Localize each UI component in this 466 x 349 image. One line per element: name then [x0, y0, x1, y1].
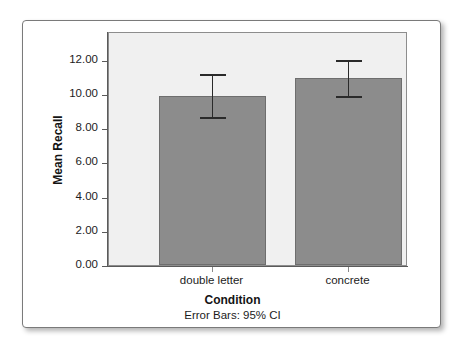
error-bar-stem [348, 60, 350, 99]
chart-footnote: Error Bars: 95% CI [23, 309, 442, 321]
y-tick-mark [102, 129, 108, 130]
error-bar-cap-upper [336, 60, 362, 62]
plot-inner [109, 33, 406, 265]
y-tick-label: 6.00 [76, 155, 98, 167]
error-bar-concrete [295, 60, 402, 99]
y-tick-label: 2.00 [76, 224, 98, 236]
error-bar-cap-lower [336, 96, 362, 98]
y-tick-mark [102, 198, 108, 199]
x-axis-line [107, 266, 408, 267]
x-tick-label-concrete: concrete [325, 274, 369, 286]
bar-double-letter[interactable] [159, 96, 266, 265]
y-tick-label: 12.00 [69, 53, 98, 65]
x-axis-title: Condition [23, 293, 442, 307]
y-tick-mark [102, 95, 108, 96]
plot-panel [108, 32, 407, 266]
y-tick-label: 10.00 [69, 87, 98, 99]
x-tick-mark-concrete [348, 267, 349, 272]
y-tick-mark [102, 163, 108, 164]
error-bar-cap-upper [200, 74, 226, 76]
y-tick-label: 8.00 [76, 121, 98, 133]
bar-chart: 0.00 2.00 4.00 6.00 8.00 10.00 12.00 [23, 21, 442, 329]
figure-card: 0.00 2.00 4.00 6.00 8.00 10.00 12.00 [22, 20, 441, 328]
y-tick-mark [102, 61, 108, 62]
y-tick-label: 0.00 [76, 258, 98, 270]
x-tick-mark-double-letter [212, 267, 213, 272]
bar-concrete[interactable] [295, 78, 402, 265]
y-tick-mark [102, 232, 108, 233]
error-bar-stem [212, 74, 214, 119]
error-bar-cap-lower [200, 117, 226, 119]
error-bar-double-letter [159, 74, 266, 119]
y-tick-label: 4.00 [76, 190, 98, 202]
y-axis-title: Mean Recall [51, 33, 66, 267]
x-tick-label-double-letter: double letter [180, 274, 243, 286]
